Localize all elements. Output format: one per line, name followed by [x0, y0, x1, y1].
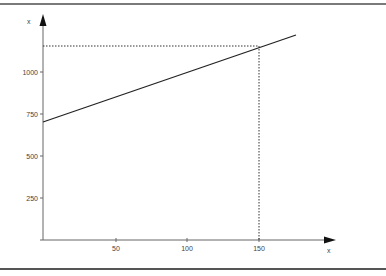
y-axis-label: x	[27, 18, 31, 25]
x-axis-arrow-icon	[324, 237, 336, 244]
x-label-100: 100	[181, 245, 193, 252]
x-label-150: 150	[253, 245, 265, 252]
y-axis-arrow-icon	[40, 14, 47, 26]
y-label-500: 500	[26, 153, 38, 160]
x-label-50: 50	[112, 245, 120, 252]
y-label-1000: 1000	[22, 69, 38, 76]
line-chart: x x 1000 750 500 250 50 100 150	[0, 0, 386, 276]
x-axis-label: x	[327, 247, 331, 254]
chart-frame: x x 1000 750 500 250 50 100 150	[0, 0, 386, 276]
y-label-750: 750	[26, 111, 38, 118]
y-label-250: 250	[26, 195, 38, 202]
data-line	[43, 35, 296, 122]
